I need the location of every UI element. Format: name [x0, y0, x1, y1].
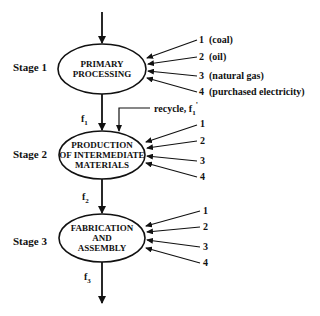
stage2-input-arrows [146, 125, 197, 177]
node-line: PROCESSING [73, 69, 132, 79]
node-line: AND [71, 233, 134, 243]
stage1-input-natural-gas: 3 (natural gas) [199, 71, 264, 81]
node-production-text: PRODUCTION OF INTERMEDIATE MATERIALS [59, 140, 144, 170]
recycle-label: recycle, f1' [154, 101, 198, 117]
stage2-input-2: 2 [200, 136, 205, 146]
stage2-input-4: 4 [200, 172, 205, 182]
node-line: ASSEMBLY [71, 243, 134, 253]
flow-subscript: 3 [87, 277, 91, 285]
stage3-input-arrows [146, 211, 200, 263]
stage2-input-1: 1 [200, 119, 205, 129]
flow-label-f2: f2 [82, 191, 89, 205]
flow-subscript: 1 [84, 119, 88, 127]
flow-label-f3: f3 [84, 271, 91, 285]
stage1-input-electricity: 4 (purchased electricity) [199, 87, 305, 97]
recycle-prime: ' [196, 101, 198, 110]
recycle-subscript: 1 [192, 109, 196, 117]
stage1-input-oil: 2 (oil) [199, 52, 226, 62]
stage-2-label: Stage 2 [13, 148, 47, 160]
stage-3-label: Stage 3 [13, 235, 47, 247]
node-line: MATERIALS [59, 160, 144, 170]
recycle-text: recycle, f [154, 103, 192, 114]
process-flow-diagram: Stage 1 Stage 2 Stage 3 PRIMARY PROCESSI… [0, 0, 320, 316]
stage-1-label: Stage 1 [13, 61, 47, 73]
recycle-arrow [119, 108, 150, 131]
node-primary-processing-text: PRIMARY PROCESSING [73, 59, 132, 79]
flow-subscript: 2 [85, 197, 89, 205]
flow-label-f1: f1 [81, 113, 88, 127]
node-line: FABRICATION [71, 223, 134, 233]
node-fabrication-text: FABRICATION AND ASSEMBLY [71, 223, 134, 253]
stage2-input-3: 3 [200, 156, 205, 166]
stage1-input-coal: 1 (coal) [199, 35, 233, 45]
stage1-input-arrows [147, 40, 197, 92]
diagram-graphics [0, 0, 320, 316]
node-line: OF INTERMEDIATE [59, 150, 144, 160]
stage3-input-3: 3 [203, 242, 208, 252]
stage3-input-2: 2 [203, 222, 208, 232]
node-line: PRODUCTION [59, 140, 144, 150]
stage3-input-4: 4 [203, 258, 208, 268]
node-line: PRIMARY [73, 59, 132, 69]
stage3-input-1: 1 [203, 206, 208, 216]
